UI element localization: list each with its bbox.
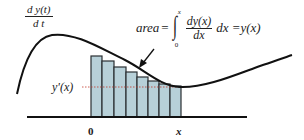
area-bar-5 [137,77,148,117]
area-bar-4 [126,72,137,117]
area-equation: area = ∫ x 0 dy(x) dx dx =y(x) [136,8,261,48]
area-bar-1 [91,56,102,117]
area-bar-3 [114,67,126,117]
integrand-differential: dx [216,20,228,36]
integral-lower-limit: 0 [175,41,179,49]
integral-sign: ∫ x 0 [173,11,183,45]
integrand-numerator: dy(x) [186,15,213,29]
derivative-value-label: y'(x) [52,81,73,93]
area-bar-8 [170,86,181,117]
equation-equals: = [161,20,168,36]
equation-lhs: area [136,20,159,36]
dy-dt-denominator: d t [33,17,44,29]
area-bar-7 [159,84,170,117]
axis-x-label: x [176,126,182,137]
dy-dt-numerator: d y(t) [25,4,53,17]
dy-dt-label: d y(t) d t [25,4,53,29]
integral-upper-limit: x [178,8,181,16]
axis-origin-label: 0 [88,126,94,137]
integrand-denominator: dx [193,29,204,42]
equation-rhs: =y(x) [232,20,261,36]
area-bar-2 [102,61,114,117]
integrand-fraction: dy(x) dx [186,15,213,41]
area-bar-6 [148,81,159,117]
integral-symbol-icon: ∫ [173,13,177,39]
area-arrow [139,49,154,68]
